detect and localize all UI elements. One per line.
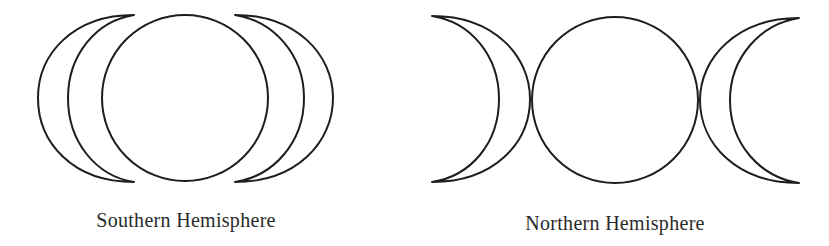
- southern-hemisphere-label: Southern Hemisphere: [96, 209, 276, 232]
- right-crescent-icon: [235, 15, 333, 182]
- full-moon-icon: [102, 15, 268, 181]
- southern-hemisphere-group: [38, 15, 333, 182]
- right-crescent-icon: [700, 18, 799, 183]
- full-moon-icon: [532, 17, 698, 183]
- northern-hemisphere-label: Northern Hemisphere: [525, 212, 705, 235]
- northern-hemisphere-group: [432, 16, 799, 183]
- left-crescent-icon: [38, 15, 134, 182]
- moon-phases-diagram: Southern Hemisphere Northern Hemisphere: [0, 0, 829, 246]
- left-crescent-icon: [432, 16, 530, 182]
